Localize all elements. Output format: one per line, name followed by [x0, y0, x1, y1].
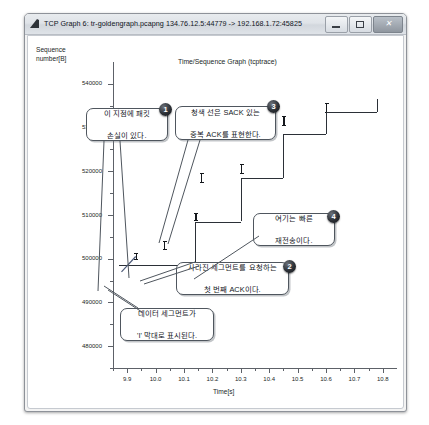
tcp-graph-window: TCP Graph 6: tr-goldengraph.pcapng 134.7…	[24, 13, 407, 412]
annotation-callout-1: 이 지점에 패킷 손실이 있다.	[86, 108, 168, 141]
screenshot-root: TCP Graph 6: tr-goldengraph.pcapng 134.7…	[0, 0, 429, 425]
minimize-button[interactable]	[325, 16, 348, 33]
annotation-callout-3: 청색 선은 SACK 있는 중복 ACK를 표현한다.	[175, 106, 276, 140]
maximize-button[interactable]	[349, 16, 372, 33]
annotation-callout-data-segment: 데이터 세그먼트가 'I' 막대로 표시된다.	[120, 308, 214, 341]
annotation-2-line1: 사라진 세그먼트를 요청하는	[188, 262, 276, 273]
close-icon: ✕	[385, 20, 392, 28]
sack-dup-ack-line	[28, 36, 404, 409]
wireshark-icon	[30, 19, 40, 29]
annotation-4-line1: 여기는 빠른	[275, 213, 312, 224]
window-controls: ✕	[325, 16, 403, 33]
annotation-callout-4: 여기는 빠른 재전송이다.	[253, 213, 335, 246]
annotation-5-line1: 데이터 세그먼트가	[137, 308, 197, 319]
annotation-badge-3: 3	[267, 100, 280, 113]
graph-client-area: Sequence number[B] Time/Sequence Graph (…	[27, 35, 404, 409]
annotation-callout-2: 사라진 세그먼트를 요청하는 첫 번째 ACK이다.	[176, 262, 289, 295]
annotation-3-line1: 청색 선은 SACK 있는	[190, 107, 260, 118]
annotation-4-line2: 재전송이다.	[275, 235, 312, 246]
annotation-badge-2: 2	[283, 260, 296, 273]
minimize-icon	[332, 26, 340, 28]
annotation-5-line2: 'I' 막대로 표시된다.	[137, 330, 197, 341]
annotation-badge-1: 1	[159, 103, 172, 116]
window-title: TCP Graph 6: tr-goldengraph.pcapng 134.7…	[44, 17, 302, 31]
annotation-badge-4: 4	[327, 210, 340, 223]
annotation-2-line2: 첫 번째 ACK이다.	[188, 284, 276, 295]
annotation-1-line2: 손실이 있다.	[104, 130, 150, 141]
annotation-3-line2: 중복 ACK를 표현한다.	[190, 129, 260, 140]
window-titlebar[interactable]: TCP Graph 6: tr-goldengraph.pcapng 134.7…	[25, 14, 406, 35]
maximize-icon	[356, 21, 364, 28]
annotation-1-line1: 이 지점에 패킷	[104, 108, 150, 119]
plot-area: Sequence number[B] Time/Sequence Graph (…	[28, 36, 403, 408]
close-button[interactable]: ✕	[373, 16, 403, 33]
